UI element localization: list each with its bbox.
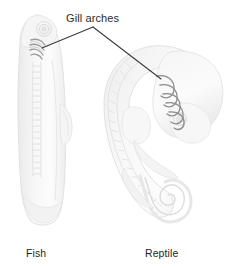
reptile-limb-bud <box>122 107 150 144</box>
embryo-illustration <box>0 0 232 268</box>
caption-fish: Fish <box>26 247 46 259</box>
caption-reptile: Reptile <box>145 247 178 259</box>
gill-arches-label: Gill arches <box>66 12 119 24</box>
fish-eye <box>37 22 52 37</box>
reptile-embryo <box>104 46 223 222</box>
embryology-figure: Gill arches Fish Reptile <box>0 0 232 268</box>
fish-fin-bud <box>60 104 72 144</box>
